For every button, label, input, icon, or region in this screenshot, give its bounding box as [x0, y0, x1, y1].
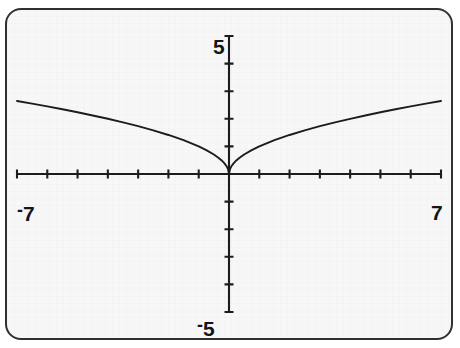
screenshot-root: 5 -5 -7 7	[0, 0, 460, 348]
y-axis-min-value: 5	[203, 317, 214, 340]
calculator-screen: 5 -5 -7 7	[5, 8, 453, 340]
minus-sign-icon: -	[197, 317, 202, 335]
x-axis-max-label: 7	[431, 202, 442, 223]
y-axis-max-label: 5	[213, 36, 224, 57]
y-axis-min-label: -5	[197, 317, 214, 339]
x-axis-min-value: 7	[23, 202, 34, 225]
graph-plot-area[interactable]	[7, 10, 451, 338]
x-axis-min-label: -7	[17, 202, 34, 224]
minus-sign-icon: -	[17, 202, 22, 220]
